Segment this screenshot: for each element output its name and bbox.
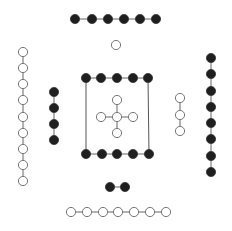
left-black-column-node xyxy=(49,135,58,144)
top-black-row-node xyxy=(70,14,79,23)
top-black-row-node xyxy=(151,14,160,23)
diagram-canvas xyxy=(0,0,232,231)
box-right-edge xyxy=(148,78,149,154)
left-white-column-node xyxy=(18,144,27,153)
top-black-row-node xyxy=(119,14,128,23)
bottom-white-row-node xyxy=(113,207,122,216)
box-bottom-black-row-node xyxy=(144,149,153,158)
bottom-white-row-node xyxy=(66,207,75,216)
top-black-row-node xyxy=(135,14,144,23)
top-black-row-node xyxy=(87,14,96,23)
right-black-column-node xyxy=(206,151,215,160)
right-black-column-node xyxy=(206,53,215,62)
left-white-column-node xyxy=(18,160,27,169)
right-black-column-node xyxy=(206,167,215,176)
box-top-black-row-node xyxy=(96,73,105,82)
box-top-black-row-node xyxy=(112,73,121,82)
center-white-cross-arm-node xyxy=(112,95,121,104)
right-black-column-node xyxy=(206,86,215,95)
left-black-column-node xyxy=(49,119,58,128)
left-black-column-node xyxy=(49,87,58,96)
center-white-cross-center-node xyxy=(112,112,121,121)
left-white-column-node xyxy=(18,128,27,137)
left-white-column-node xyxy=(18,79,27,88)
center-white-cross-arm-node xyxy=(128,112,137,121)
right-black-column-node xyxy=(206,102,215,111)
box-top-black-row-node xyxy=(81,73,90,82)
right-black-column-node xyxy=(206,69,215,78)
left-white-column-node xyxy=(18,112,27,121)
right-white-column-node xyxy=(175,126,184,135)
right-white-column-node xyxy=(175,93,184,102)
right-black-column-node xyxy=(206,118,215,127)
box-bottom-black-row-node xyxy=(112,149,121,158)
right-white-column-node xyxy=(175,110,184,119)
box-top-black-row-node xyxy=(143,73,152,82)
bottom-white-row-node xyxy=(145,207,154,216)
bottom-black-pair-node xyxy=(120,182,129,191)
left-white-column-node xyxy=(18,176,27,185)
center-white-cross-arm-node xyxy=(112,128,121,137)
box-bottom-black-row-node xyxy=(128,149,137,158)
left-white-column-node xyxy=(18,63,27,72)
bottom-white-row-node xyxy=(161,207,170,216)
left-white-column-node xyxy=(18,47,27,56)
bottom-white-row-node xyxy=(82,207,91,216)
box-top-black-row-node xyxy=(128,73,137,82)
top-single-white-node xyxy=(111,40,120,49)
nodes-layer xyxy=(18,14,215,216)
left-black-column-node xyxy=(49,103,58,112)
center-white-cross-arm-node xyxy=(96,112,105,121)
bottom-white-row-node xyxy=(129,207,138,216)
bottom-white-row-node xyxy=(98,207,107,216)
box-bottom-black-row-node xyxy=(81,149,90,158)
left-white-column-node xyxy=(18,95,27,104)
top-black-row-node xyxy=(103,14,112,23)
box-bottom-black-row-node xyxy=(97,149,106,158)
bottom-black-pair-node xyxy=(105,182,114,191)
right-black-column-node xyxy=(206,134,215,143)
